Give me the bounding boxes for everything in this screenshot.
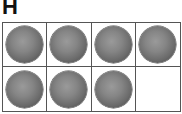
frame-cell-filled [47, 23, 91, 67]
sphere-icon [95, 26, 132, 63]
frame-cell-filled [3, 23, 47, 67]
counting-frame [2, 22, 181, 112]
sphere-icon [50, 71, 87, 108]
frame-cell-empty [136, 67, 180, 111]
frame-cell-filled [136, 23, 180, 67]
frame-cell-filled [47, 67, 91, 111]
frame-cell-filled [3, 67, 47, 111]
frame-cell-filled [92, 67, 136, 111]
sphere-icon [139, 26, 176, 63]
sphere-icon [50, 26, 87, 63]
sphere-icon [95, 71, 132, 108]
sphere-icon [6, 71, 43, 108]
figure-label: H [2, 0, 18, 18]
frame-cell-filled [92, 23, 136, 67]
sphere-icon [6, 26, 43, 63]
